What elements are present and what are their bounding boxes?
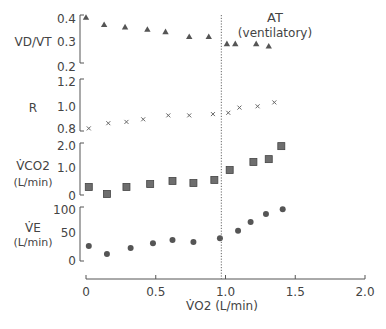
panel-vd-vt: 0.40.30.2VD/VT xyxy=(14,12,271,74)
data-point-circle xyxy=(86,243,92,249)
data-point-square xyxy=(85,183,92,190)
panel-vco2: 2.01.00V̇CO2(L/min) xyxy=(13,139,284,203)
annotation-label-ventilatory: (ventilatory) xyxy=(238,26,312,40)
x-tick-label: 2.0 xyxy=(355,285,374,299)
panels: 0.40.30.2VD/VT1.21.00.8R2.01.00V̇CO2(L/m… xyxy=(13,12,285,268)
y-tick-label: 50 xyxy=(61,226,76,240)
y-axis-label: V̇CO2 xyxy=(16,159,50,173)
y-axis-bracket xyxy=(80,207,84,261)
x-tick-label: 1.0 xyxy=(216,285,235,299)
data-point-square xyxy=(190,180,197,187)
data-point-square xyxy=(169,177,176,184)
data-point-x xyxy=(226,111,230,115)
x-tick-label: 0.5 xyxy=(146,285,165,299)
data-point-triangle xyxy=(232,41,238,47)
data-point-x xyxy=(166,113,170,117)
y-tick-label: 100 xyxy=(53,203,76,217)
data-point-x xyxy=(272,100,276,104)
x-tick-label: 0 xyxy=(82,285,90,299)
y-tick-label: 2.0 xyxy=(57,139,76,153)
data-point-x xyxy=(237,106,241,110)
y-axis-bracket xyxy=(80,143,84,195)
panel-r: 1.21.00.8R xyxy=(29,75,276,136)
panel-ve: 100500V̇E(L/min) xyxy=(13,203,285,268)
data-point-x xyxy=(106,121,110,125)
y-axis-label: V̇E xyxy=(25,221,41,235)
x-axis: 00.51.01.52.0 xyxy=(82,275,374,299)
data-point-x xyxy=(187,113,191,117)
data-point-square xyxy=(278,143,285,150)
y-axis-unit: (L/min) xyxy=(13,176,52,189)
data-point-circle xyxy=(104,251,110,257)
y-axis-bracket xyxy=(80,79,84,131)
data-point-circle xyxy=(217,235,223,241)
data-point-triangle xyxy=(266,43,272,49)
y-tick-label: 0 xyxy=(68,254,76,268)
data-point-circle xyxy=(150,240,156,246)
data-point-x xyxy=(211,112,215,116)
y-tick-label: 0.8 xyxy=(57,122,76,136)
data-point-x xyxy=(124,120,128,124)
y-tick-label: 0.4 xyxy=(57,12,76,26)
y-tick-label: 1.0 xyxy=(57,161,76,175)
data-point-square xyxy=(226,167,233,174)
data-point-triangle xyxy=(253,41,259,47)
x-axis-label: V̇O2 (L/min) xyxy=(186,299,258,313)
annotation-label-at: AT xyxy=(267,10,283,25)
at-annotation: AT (ventilatory) xyxy=(221,10,312,279)
data-point-triangle xyxy=(101,21,107,27)
x-tick-label: 1.5 xyxy=(286,285,305,299)
data-point-circle xyxy=(128,245,134,251)
data-point-triangle xyxy=(122,24,128,30)
y-tick-label: 1.2 xyxy=(57,75,76,89)
data-point-circle xyxy=(169,237,175,243)
y-axis-label: VD/VT xyxy=(14,35,52,49)
data-point-x xyxy=(87,126,91,130)
data-point-square xyxy=(103,190,110,197)
data-point-square xyxy=(123,183,130,190)
data-point-circle xyxy=(280,206,286,212)
data-point-circle xyxy=(263,211,269,217)
data-point-triangle xyxy=(186,33,192,39)
data-point-square xyxy=(147,181,154,188)
data-point-square xyxy=(250,158,257,165)
data-point-square xyxy=(265,156,272,163)
data-point-x xyxy=(256,104,260,108)
y-tick-label: 0 xyxy=(68,189,76,203)
data-point-triangle xyxy=(144,26,150,32)
data-point-x xyxy=(141,117,145,121)
data-point-triangle xyxy=(224,41,230,47)
y-axis-unit: (L/min) xyxy=(13,236,52,249)
data-point-circle xyxy=(248,219,254,225)
y-tick-label: 0.3 xyxy=(57,35,76,49)
data-point-triangle xyxy=(162,29,168,35)
data-point-circle xyxy=(235,228,241,234)
y-tick-label: 0.2 xyxy=(57,60,76,74)
data-point-circle xyxy=(190,239,196,245)
y-axis-bracket xyxy=(80,15,84,63)
y-tick-label: 1.0 xyxy=(57,100,76,114)
data-point-triangle xyxy=(206,33,212,39)
y-axis-label: R xyxy=(29,101,37,115)
data-point-square xyxy=(211,176,218,183)
chart: 0.40.30.2VD/VT1.21.00.8R2.01.00V̇CO2(L/m… xyxy=(0,0,386,329)
